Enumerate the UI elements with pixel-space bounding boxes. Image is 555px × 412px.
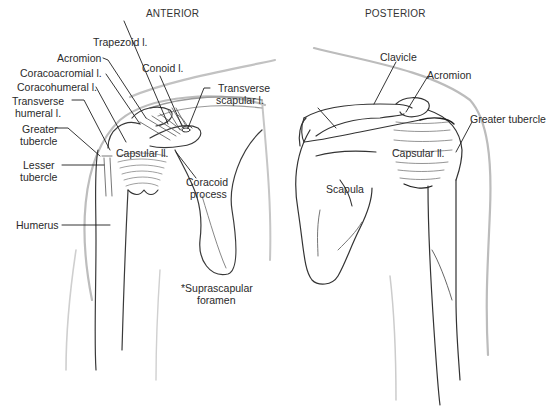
- label-trapezoid-ligament: Trapezoid l.: [93, 36, 147, 48]
- label-lesser-tubercle-line1: Lesser: [23, 159, 55, 171]
- shoulder-anatomy-figure: ANTERIOR POSTERIOR Trapezoid l. Acromion…: [0, 0, 555, 412]
- label-suprascapular-foramen-line1: *Suprascapular: [181, 282, 253, 294]
- label-clavicle: Clavicle: [380, 51, 417, 63]
- label-coracohumeral-ligament: Coracohumeral l.: [17, 81, 97, 93]
- label-suprascapular-foramen-line2: foramen: [197, 294, 236, 306]
- anterior-title: ANTERIOR: [146, 8, 199, 19]
- label-capsular-ligaments-anterior: Capsular ll.: [116, 147, 169, 159]
- posterior-drawing: [296, 48, 491, 405]
- label-transverse-humeral-line2: humeral l.: [15, 107, 61, 119]
- label-transverse-scapular-line1: Transverse: [218, 82, 270, 94]
- posterior-title: POSTERIOR: [365, 8, 426, 19]
- label-coracoid-process-line2: process: [190, 188, 227, 200]
- label-greater-tubercle-posterior: Greater tubercle: [470, 113, 546, 125]
- label-coracoid-process-line1: Coracoid: [186, 176, 228, 188]
- label-greater-tubercle-line2: tubercle: [20, 135, 57, 147]
- label-transverse-scapular-line2: scapular l.: [216, 94, 264, 106]
- label-conoid-ligament: Conoid l.: [142, 62, 183, 74]
- label-greater-tubercle-line1: Greater: [22, 123, 58, 135]
- label-lesser-tubercle-line2: tubercle: [20, 171, 57, 183]
- label-scapula: Scapula: [326, 183, 364, 195]
- label-transverse-humeral-line1: Transverse: [12, 95, 64, 107]
- label-capsular-ligaments-posterior: Capsular ll.: [392, 147, 445, 159]
- label-acromion-anterior: Acromion: [57, 52, 101, 64]
- label-coracoacromial-ligament: Coracoacromial l.: [20, 67, 102, 79]
- label-acromion-posterior: Acromion: [427, 69, 471, 81]
- label-humerus: Humerus: [16, 219, 59, 231]
